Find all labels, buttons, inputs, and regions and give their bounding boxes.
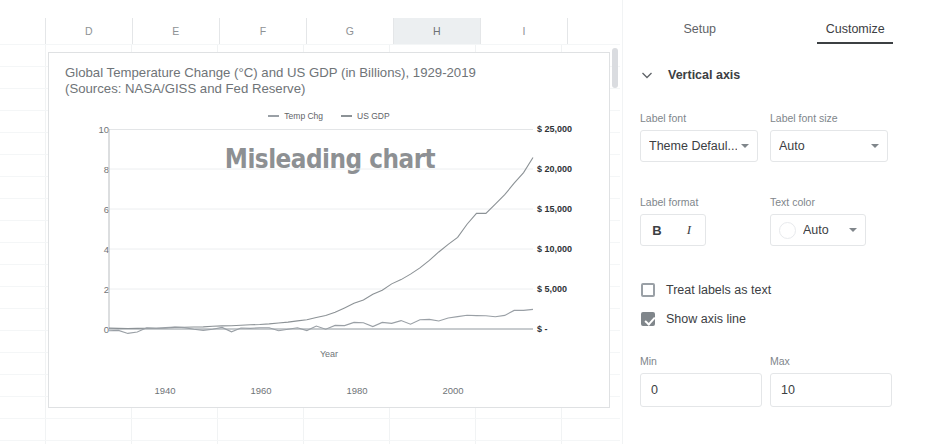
x-axis-tick-label: 1960 (250, 385, 271, 396)
tab-active-underline (817, 42, 893, 44)
column-header-d[interactable]: D (46, 18, 133, 44)
label-font-size-select[interactable]: Auto (770, 130, 888, 162)
x-axis-tick-label: 1980 (346, 385, 367, 396)
label-font-value: Theme Defaul... (649, 139, 737, 153)
max-value: 10 (781, 383, 795, 397)
label-font-select[interactable]: Theme Defaul... (640, 130, 758, 162)
panel-divider (622, 0, 623, 444)
tab-setup[interactable]: Setup (622, 22, 778, 44)
chart-title-line-1: Global Temperature Change (°C) and US GD… (65, 65, 593, 81)
column-header-label: D (85, 25, 93, 37)
legend-swatch-icon (268, 115, 279, 118)
checkbox-checked-icon[interactable] (641, 312, 655, 326)
legend-swatch-icon (341, 115, 352, 118)
x-axis-tick-label: 1940 (154, 385, 175, 396)
tab-label: Setup (683, 22, 716, 36)
tab-label: Customize (826, 22, 885, 36)
column-header-f[interactable]: F (220, 18, 307, 44)
chart-svg (49, 129, 611, 379)
chevron-down-icon (640, 68, 654, 82)
panel-tabs: Setup Customize (622, 22, 933, 44)
checkbox-label: Treat labels as text (666, 283, 771, 297)
chart-title-line-2: (Sources: NASA/GISS and Fed Reserve) (65, 81, 593, 97)
chart-gridlines (109, 129, 533, 329)
column-header-h[interactable]: H (394, 18, 481, 44)
spreadsheet-area: D E F G H I Global Temperature Change (°… (0, 0, 620, 444)
chevron-down-icon (741, 144, 749, 148)
tab-customize[interactable]: Customize (778, 22, 933, 44)
column-header-e[interactable]: E (133, 18, 220, 44)
chart-card[interactable]: Global Temperature Change (°C) and US GD… (48, 52, 610, 408)
label-font-size-label: Label font size (770, 112, 838, 124)
legend-label: Temp Chg (284, 111, 323, 121)
chart-plot-area: Misleading chart 10 8 6 4 2 0 $ 25,000 $… (49, 129, 611, 379)
chevron-down-icon (849, 228, 857, 232)
min-input[interactable]: 0 (640, 373, 762, 407)
min-label: Min (640, 355, 657, 367)
checkbox-label: Show axis line (666, 312, 746, 326)
label-format-label: Label format (640, 196, 698, 208)
chart-editor-panel: Setup Customize Vertical axis Label font… (622, 0, 933, 444)
x-axis-tick-label: 2000 (442, 385, 463, 396)
label-format-group: B I (640, 214, 706, 246)
column-header-label: G (346, 25, 354, 37)
label-font-size-value: Auto (779, 139, 867, 153)
column-headers: D E F G H I (0, 18, 620, 44)
checkbox-show-axis-line[interactable]: Show axis line (641, 312, 746, 326)
column-header-label: F (260, 25, 267, 37)
color-swatch-icon (779, 222, 796, 239)
chart-title: Global Temperature Change (°C) and US GD… (65, 65, 593, 97)
label-font-label: Label font (640, 112, 686, 124)
legend-item-us-gdp: US GDP (341, 111, 390, 121)
text-color-value: Auto (803, 223, 845, 237)
column-header-label: E (172, 25, 179, 37)
x-axis-title: Year (49, 349, 609, 359)
column-header-g[interactable]: G (307, 18, 394, 44)
column-header-i[interactable]: I (481, 18, 568, 44)
app-root: D E F G H I Global Temperature Change (°… (0, 0, 933, 444)
vertical-scrollbar[interactable] (612, 48, 618, 88)
chevron-down-icon (871, 144, 879, 148)
min-value: 0 (651, 383, 658, 397)
chart-legend: Temp Chg US GDP (49, 111, 609, 121)
column-header-label: H (433, 25, 441, 37)
column-header-corner[interactable] (0, 18, 46, 44)
bold-button[interactable]: B (641, 223, 673, 238)
series-line-us-gdp (109, 158, 533, 329)
checkbox-treat-labels-as-text[interactable]: Treat labels as text (641, 283, 771, 297)
section-title: Vertical axis (668, 68, 740, 82)
max-label: Max (770, 355, 790, 367)
text-color-select[interactable]: Auto (770, 214, 866, 246)
series-line-temp-chg (109, 309, 533, 333)
legend-label: US GDP (357, 111, 390, 121)
legend-item-temp-chg: Temp Chg (268, 111, 323, 121)
italic-button[interactable]: I (673, 222, 705, 238)
column-header-label: I (522, 25, 525, 37)
section-vertical-axis[interactable]: Vertical axis (640, 68, 740, 82)
text-color-label: Text color (770, 196, 815, 208)
max-input[interactable]: 10 (770, 373, 892, 407)
checkbox-icon[interactable] (641, 283, 655, 297)
